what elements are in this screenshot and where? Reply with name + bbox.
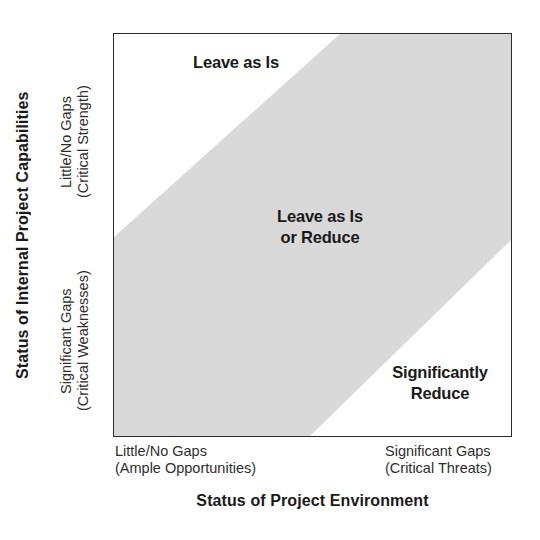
region-label-leave-as-is-or-reduce: Leave as Is or Reduce [222,206,418,248]
region-label-significantly-reduce: Significantly Reduce [364,362,512,404]
plot-area: Leave as Is Leave as Is or Reduce Signif… [113,33,512,437]
y-axis-title: Status of Internal Project Capabilities [14,40,32,430]
x-axis-tick-right: Significant Gaps (Critical Threats) [385,443,540,477]
x-axis-tick-left: Little/No Gaps (Ample Opportunities) [115,443,315,477]
swot-matrix-figure: Status of Internal Project Capabilities … [0,0,540,540]
y-axis-tick-bottom: Significant Gaps (Critical Weaknesses) [58,250,92,432]
x-axis-title: Status of Project Environment [113,492,512,510]
y-axis-tick-top: Little/No Gaps (Critical Strength) [58,58,92,226]
region-label-leave-as-is: Leave as Is [136,52,336,73]
